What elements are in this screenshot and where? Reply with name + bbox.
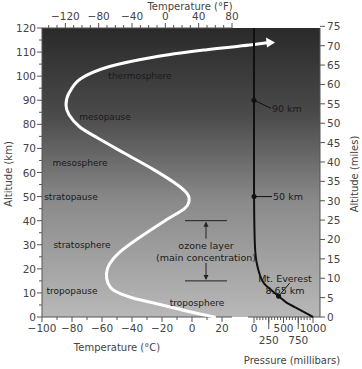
km-tick-label: 120 — [16, 22, 36, 34]
region-label-thermosphere: thermosphere — [108, 71, 172, 81]
miles-tick-label: 40 — [327, 156, 340, 168]
km-tick-label: 80 — [23, 118, 36, 130]
miles-tick-label: 45 — [327, 137, 340, 149]
km-tick-label: 60 — [23, 167, 36, 179]
region-label-stratopause: stratopause — [44, 192, 98, 202]
region-label-mesosphere: mesosphere — [52, 158, 108, 168]
pressure-tick-label: 0 — [251, 322, 258, 334]
miles-tick-label: 10 — [327, 272, 340, 284]
celsius-tick-label: −40 — [121, 322, 143, 334]
km-tick-label: 20 — [23, 263, 36, 275]
left-axis-title: Altitude (km) — [3, 141, 14, 207]
celsius-tick-label: −100 — [28, 322, 57, 334]
right-axis-title: Altitude (miles) — [349, 136, 360, 213]
km-tick-label: 10 — [23, 287, 36, 299]
km-tick-label: 50 — [23, 191, 36, 203]
km-tick-label: 70 — [23, 142, 36, 154]
label-everest-name: Mt. Everest — [258, 273, 312, 284]
atmosphere-chart: 0102030405060708090100110120051015202530… — [0, 0, 362, 369]
miles-tick-label: 65 — [327, 59, 340, 71]
miles-tick-label: 50 — [327, 117, 340, 129]
region-label-tropopause: tropopause — [47, 286, 98, 296]
region-label-stratosphere: stratosphere — [53, 240, 111, 250]
top-axis-title: Temperature (°F) — [146, 1, 232, 12]
celsius-tick-label: −20 — [151, 322, 173, 334]
celsius-tick-label: −80 — [61, 322, 83, 334]
km-tick-label: 90 — [23, 94, 36, 106]
miles-tick-label: 15 — [327, 253, 340, 265]
km-tick-label: 30 — [23, 239, 36, 251]
miles-tick-label: 5 — [327, 292, 334, 304]
km-tick-label: 100 — [16, 70, 36, 82]
pressure-tick-label: 750 — [288, 334, 308, 346]
miles-tick-label: 75 — [327, 20, 340, 32]
miles-tick-label: 35 — [327, 175, 340, 187]
ozone-label-line1: ozone layer — [178, 240, 233, 251]
miles-tick-label: 20 — [327, 233, 340, 245]
label-50km: 50 km — [273, 191, 303, 202]
celsius-tick-label: −60 — [91, 322, 113, 334]
miles-tick-label: 55 — [327, 98, 340, 110]
pressure-tick-label: 500 — [273, 322, 293, 334]
miles-tick-label: 70 — [327, 40, 340, 52]
celsius-tick-label: 20 — [215, 322, 228, 334]
km-tick-label: 40 — [23, 215, 36, 227]
label-everest-height: 8.65 km — [266, 285, 305, 296]
miles-tick-label: 25 — [327, 214, 340, 226]
ozone-label-line2: (main concentration) — [156, 252, 256, 263]
celsius-tick-label: 0 — [189, 322, 196, 334]
miles-tick-label: 60 — [327, 78, 340, 90]
fahrenheit-tick-label: −80 — [88, 10, 110, 22]
region-label-mesopause: mesopause — [79, 112, 131, 122]
miles-tick-label: 0 — [327, 311, 334, 323]
pressure-tick-label: 1000 — [300, 322, 327, 334]
pressure-axis-title: Pressure (millibars) — [244, 355, 340, 366]
bottom-axis-title: Temperature (°C) — [73, 342, 160, 353]
miles-tick-label: 30 — [327, 195, 340, 207]
km-tick-label: 110 — [16, 46, 36, 58]
pressure-tick-label: 250 — [259, 334, 279, 346]
fahrenheit-tick-label: −120 — [51, 10, 80, 22]
fahrenheit-tick-label: −40 — [121, 10, 143, 22]
label-90km: 90 km — [272, 103, 302, 114]
region-label-troposphere: troposphere — [170, 298, 225, 308]
